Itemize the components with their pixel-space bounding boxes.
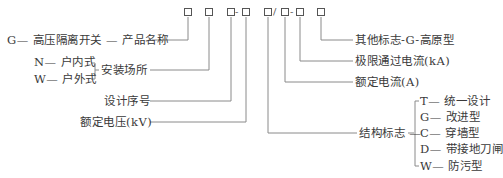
label-rated-current: 额定电流(A) — [355, 75, 420, 89]
install-option-n: N— 户内式 — [34, 55, 95, 69]
separator-dash: - — [290, 7, 293, 17]
code-box-design-serial — [227, 8, 235, 16]
label-other-mark: 其他标志-G-高原型 — [355, 33, 454, 47]
label-structure-mark: 结构标志 — — [359, 126, 421, 140]
separator-slash: / — [273, 7, 276, 17]
structure-option-w: W— 防污型 — [420, 159, 483, 173]
label-install-location: 安装场所 — [101, 63, 147, 77]
structure-option-d: D— 带接地刀闸 — [420, 142, 503, 156]
code-box-location — [205, 8, 213, 16]
line-rated-current — [285, 17, 353, 82]
label-product-name: G— 高压隔离开关 — 产品名称 — [7, 33, 168, 47]
label-rated-voltage: 额定电压(kV) — [80, 115, 152, 129]
structure-option-g: G— 改进型 — [420, 110, 480, 124]
product-name-prefix: G— 高压隔离开关 — — [7, 33, 122, 47]
structure-option-c: C— 穿墙型 — [420, 126, 480, 140]
code-box-voltage — [242, 8, 250, 16]
line-design-serial — [150, 17, 231, 101]
code-box-product — [184, 8, 192, 16]
structure-option-t: T— 统一设计 — [420, 94, 490, 108]
line-other-mark — [321, 17, 353, 40]
label-limit-current: 极限通过电流(kA) — [355, 54, 450, 68]
line-structure-mark — [268, 17, 357, 133]
code-box-limit-current — [296, 8, 304, 16]
code-box-other — [317, 8, 325, 16]
product-name-label: 产品名称 — [122, 33, 168, 47]
code-box-structure — [264, 8, 272, 16]
code-box-rated-current — [281, 8, 289, 16]
separator-dash: - — [235, 7, 238, 17]
label-design-serial: 设计序号 — [104, 94, 150, 108]
install-option-w: W— 户外式 — [34, 72, 97, 86]
line-limit-current — [300, 17, 353, 61]
